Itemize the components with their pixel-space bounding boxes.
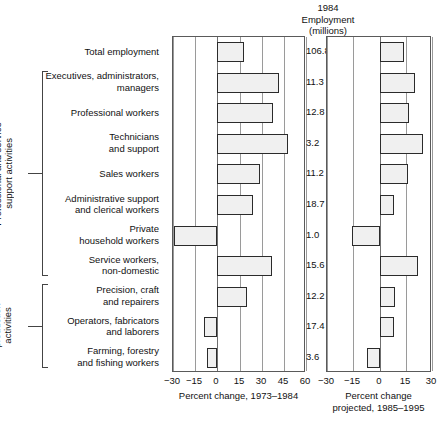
group-label-professional-and-service: Professional and service support activit… (0, 71, 14, 277)
category-label: Executives, administrators, managers (45, 70, 159, 93)
chart-right-plot-area (326, 36, 431, 372)
header-year: 1984 (268, 2, 388, 14)
gridline-45 (284, 37, 285, 371)
chart-right-xticks: −30−1501530 (326, 375, 431, 388)
gridline--30 (327, 37, 328, 371)
bar (380, 42, 405, 62)
chart-left-xticks: −30−15015304560 (172, 375, 305, 388)
gridline--15 (353, 37, 354, 371)
employment-values-column: 106.811.312.83.211.218.71.015.612.217.43… (305, 36, 326, 372)
employment-value: 17.4 (306, 320, 325, 332)
bar (380, 256, 419, 276)
gridline--15 (195, 37, 196, 371)
chart-header: 1984 Employment (millions) (268, 2, 388, 37)
category-label: Administrative support and clerical work… (65, 193, 159, 216)
bar (380, 287, 396, 307)
xtick-label: 0 (366, 375, 392, 386)
bar (217, 134, 288, 154)
group-bracket-stem (28, 326, 42, 327)
category-label: Service workers, non-domestic (89, 254, 159, 277)
header-employment: Employment (268, 14, 388, 26)
category-label: Private household workers (79, 223, 159, 246)
bar (380, 134, 424, 154)
xtick-label: 15 (392, 375, 418, 386)
employment-value: 15.6 (306, 259, 325, 271)
category-label: Precision, craft and repairers (96, 284, 159, 307)
category-label: Technicians and support (109, 131, 159, 154)
employment-value: 3.2 (306, 137, 319, 149)
bar (217, 195, 252, 215)
group-bracket (42, 71, 48, 277)
bar (204, 317, 217, 337)
category-label: Professional workers (71, 107, 159, 119)
header-units: (millions) (268, 25, 388, 37)
bar (380, 73, 415, 93)
bar (367, 348, 379, 368)
employment-value: 1.0 (306, 229, 319, 241)
employment-value: 3.6 (306, 351, 319, 363)
bar (207, 348, 217, 368)
category-label: Farming, forestry and fishing workers (77, 345, 159, 368)
gridline-30 (432, 37, 433, 371)
gridline--30 (173, 37, 174, 371)
bar (352, 226, 380, 246)
bar (217, 287, 247, 307)
bar (217, 103, 273, 123)
bar (217, 73, 279, 93)
bar (380, 317, 394, 337)
bar (380, 195, 394, 215)
chart-right-axis-title: Percent change projected, 1985–1995 (318, 390, 439, 413)
employment-value: 12.8 (306, 106, 325, 118)
category-label: Sales workers (99, 168, 159, 180)
xtick-label: 30 (418, 375, 441, 386)
employment-value: 11.2 (306, 167, 324, 179)
group-label-direct-production: Direct production activities (0, 284, 13, 368)
group-bracket (42, 284, 48, 368)
employment-value: 12.2 (306, 290, 325, 302)
group-bracket-stem (28, 173, 42, 174)
employment-value: 18.7 (306, 198, 325, 210)
category-labels: Total employmentExecutives, administrato… (0, 36, 166, 372)
employment-value: 11.3 (306, 76, 324, 88)
bar (380, 164, 408, 184)
bar (217, 164, 260, 184)
chart-left-plot-area (172, 36, 305, 372)
category-label: Total employment (85, 46, 159, 58)
xtick-label: −15 (339, 375, 365, 386)
xtick-label: −30 (313, 375, 339, 386)
bar (217, 256, 272, 276)
bar (380, 103, 410, 123)
bar (174, 226, 217, 246)
category-label: Operators, fabricators and laborers (67, 315, 159, 338)
chart-left-axis-title: Percent change, 1973–1984 (172, 390, 305, 402)
bar (217, 42, 244, 62)
